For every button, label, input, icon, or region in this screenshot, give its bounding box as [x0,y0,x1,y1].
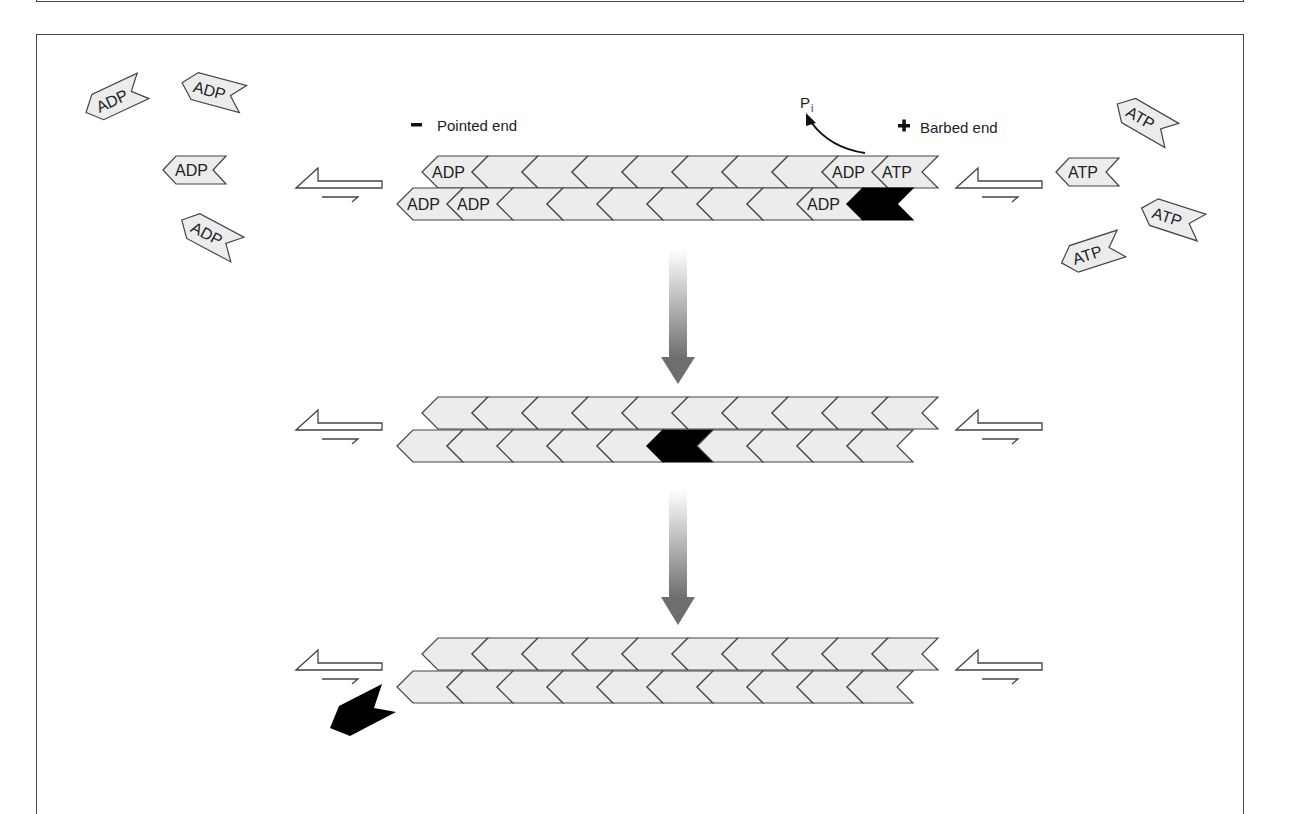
equilibrium-arrow-icon [956,410,1042,444]
free-monomer: ADP [163,156,226,184]
equilibrium-arrow-icon [296,410,382,444]
phosphate-label: P [800,94,810,111]
free-monomer: ADP [80,73,149,125]
down-arrow-icon [661,357,695,384]
subunit-nucleotide-label: ATP [882,164,912,181]
pointed-end-label: Pointed end [411,117,517,134]
barbed-end-label: Barbed end [898,119,998,136]
plus-sign-icon [902,120,906,132]
subunit-nucleotide-label: ADP [407,196,440,213]
free-monomer: ATP [1057,230,1126,276]
equilibrium-arrow-icon [296,168,382,202]
filament-3 [397,638,938,703]
free-monomer: ATP [1056,158,1119,186]
pointed-end-text: Pointed end [437,117,517,134]
phosphate-release: P i [800,94,865,153]
dissociated-adp-subunit [330,684,396,736]
subunit-nucleotide-label: ADP [432,164,465,181]
equilibrium-arrow-icon [956,168,1042,202]
release-arrow-curve [811,122,865,153]
transition-arrow-1 [661,250,695,384]
monomer-label: ADP [175,162,208,179]
free-monomer: ADP [175,208,244,262]
phosphate-subscript: i [811,103,813,114]
down-arrow-icon [661,597,695,625]
free-monomer: ATP [1110,92,1179,148]
subunit-nucleotide-label: ADP [832,164,865,181]
transition-arrow-2 [661,490,695,625]
equilibrium-arrow-icon [296,650,382,684]
equilibrium-arrow-icon [956,650,1042,684]
subunit-nucleotide-label: ADP [457,196,490,213]
filament-1: ADPADPATPADPADPADP [397,156,938,220]
free-monomer: ATP [1137,195,1206,241]
minus-sign-icon [411,123,422,127]
free-monomer: ADP [178,69,246,112]
subunit-nucleotide-label: ADP [807,196,840,213]
filament-2 [397,397,938,462]
release-arrowhead-icon [806,113,816,126]
barbed-end-text: Barbed end [920,119,998,136]
monomer-label: ATP [1068,164,1098,181]
